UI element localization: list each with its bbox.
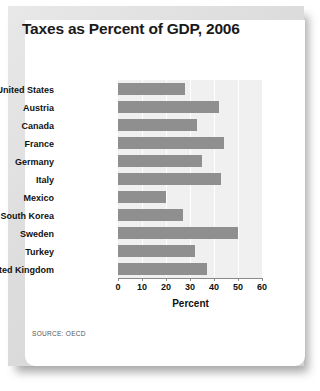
x-axis-tick-label: 50	[226, 282, 250, 292]
bar	[118, 227, 238, 239]
bar	[118, 155, 202, 167]
x-axis-tick	[190, 278, 191, 281]
x-axis-tick	[238, 278, 239, 281]
category-label: Germany	[0, 157, 54, 167]
category-label: South Korea	[0, 211, 54, 221]
category-label: Sweden	[0, 229, 54, 239]
x-axis-tick	[262, 278, 263, 281]
bar-row: Italy	[0, 170, 262, 188]
bar-row: Mexico	[0, 188, 262, 206]
x-axis-tick-label: 20	[154, 282, 178, 292]
x-axis-tick-label: 30	[178, 282, 202, 292]
x-axis-tick	[118, 278, 119, 281]
gridline	[262, 80, 263, 278]
bar	[118, 119, 197, 131]
x-axis-tick-label: 40	[202, 282, 226, 292]
bar-row: Canada	[0, 116, 262, 134]
bar-row: France	[0, 134, 262, 152]
bar	[118, 263, 207, 275]
x-axis-tick	[166, 278, 167, 281]
source-note: SOURCE: OECD	[32, 330, 86, 337]
category-label: Mexico	[0, 193, 54, 203]
category-label: France	[0, 139, 54, 149]
category-label: Canada	[0, 121, 54, 131]
bar-row: Germany	[0, 152, 262, 170]
bar	[118, 245, 195, 257]
bar-row: South Korea	[0, 206, 262, 224]
bar-row: Austria	[0, 98, 262, 116]
category-label: United Kingdom	[0, 265, 54, 275]
category-label: United States	[0, 85, 54, 95]
bar	[118, 137, 224, 149]
bar-row: United States	[0, 80, 262, 98]
x-axis-tick	[214, 278, 215, 281]
bar-row: Turkey	[0, 242, 262, 260]
bar	[118, 191, 166, 203]
bar	[118, 101, 219, 113]
category-label: Italy	[0, 175, 54, 185]
x-axis-tick-label: 0	[106, 282, 130, 292]
x-axis-tick	[142, 278, 143, 281]
x-axis-tick-label: 60	[250, 282, 274, 292]
bar-row: Sweden	[0, 224, 262, 242]
x-axis-title: Percent	[118, 298, 263, 309]
bar	[118, 209, 183, 221]
category-label: Turkey	[0, 247, 54, 257]
bar	[118, 173, 221, 185]
bar-row: United Kingdom	[0, 260, 262, 278]
category-label: Austria	[0, 103, 54, 113]
x-axis-tick-label: 10	[130, 282, 154, 292]
bar	[118, 83, 185, 95]
chart-title: Taxes as Percent of GDP, 2006	[22, 20, 292, 38]
